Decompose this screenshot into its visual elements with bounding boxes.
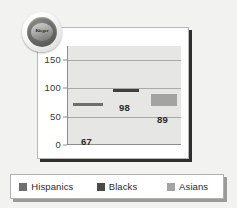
legend-swatch-icon — [167, 183, 175, 191]
legend-swatch-icon — [19, 183, 27, 191]
y-tick-label: 50 — [50, 112, 61, 122]
bar-hispanics — [73, 103, 103, 106]
y-tick-mark — [63, 88, 67, 89]
y-axis: 050100150 — [37, 46, 67, 146]
bar-blacks — [113, 89, 139, 92]
gridline — [68, 60, 181, 61]
legend-item[interactable]: Hispanics — [11, 182, 82, 192]
legend-swatch-icon — [97, 183, 105, 191]
y-tick-label: 150 — [45, 55, 61, 65]
bar-value-label: 67 — [81, 137, 92, 147]
logo-inner-disc: Kieger — [31, 23, 53, 41]
plot-area: 679889 — [67, 46, 181, 145]
legend-label: Asians — [179, 182, 208, 192]
legend-label: Hispanics — [31, 182, 73, 192]
y-tick-mark — [63, 145, 67, 146]
legend-item[interactable]: Asians — [152, 182, 223, 192]
y-tick-mark — [63, 60, 67, 61]
bar-asians — [151, 94, 177, 106]
y-tick-label: 0 — [56, 140, 61, 150]
logo-badge: Kieger — [22, 12, 62, 52]
bar-value-label: 98 — [119, 103, 130, 113]
logo-text: Kieger — [31, 28, 53, 33]
y-tick-label: 100 — [45, 84, 61, 94]
logo-ring: Kieger — [27, 17, 57, 47]
legend-item[interactable]: Blacks — [82, 182, 153, 192]
chart-screenshot: 679889 050100150 Kieger HispanicsBlacksA… — [0, 0, 237, 208]
bar-value-label: 89 — [157, 115, 168, 125]
chart-legend: HispanicsBlacksAsians — [10, 174, 224, 199]
legend-label: Blacks — [109, 182, 138, 192]
y-tick-mark — [63, 116, 67, 117]
